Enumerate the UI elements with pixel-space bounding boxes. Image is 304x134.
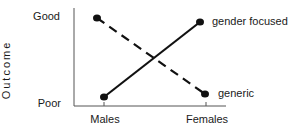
series-generic-point-females <box>201 91 209 98</box>
legend-generic: generic <box>218 87 254 99</box>
series-generic-point-males <box>93 15 101 22</box>
y-tick-good: Good <box>20 10 60 22</box>
x-tick-label-females: Females <box>186 113 228 125</box>
y-axis-label: Outcome <box>0 41 12 100</box>
series-gender-focused-line <box>104 22 200 97</box>
legend-gender-focused: gender focused <box>212 15 288 27</box>
series-gender-focused-point-males <box>100 94 108 101</box>
series-gender-focused-point-females <box>196 19 204 26</box>
x-tick-label-males: Males <box>90 113 119 125</box>
y-tick-poor: Poor <box>21 97 61 109</box>
outcome-chart: Outcome Good Poor Males Females gender f… <box>0 0 304 134</box>
